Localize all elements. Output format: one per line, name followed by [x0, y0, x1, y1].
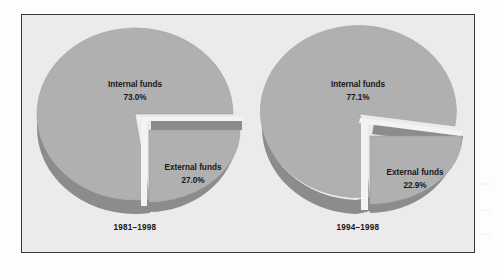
- internal-funds-label-right: Internal funds: [331, 80, 386, 89]
- pie-chart-svg-left: Internal funds 73.0% External funds 27.0…: [21, 14, 248, 253]
- internal-funds-label-left: Internal funds: [108, 80, 163, 89]
- pie-chart-1994-1998: Internal funds 77.1% External funds 22.9…: [248, 14, 475, 253]
- charts-row: Internal funds 73.0% External funds 27.0…: [21, 14, 475, 253]
- pie-chart-1981-1998: Internal funds 73.0% External funds 27.0…: [21, 14, 248, 253]
- pie-chart-svg-right: Internal funds 77.1% External funds 22.9…: [248, 14, 475, 253]
- caption-left: 1981–1998: [114, 223, 157, 232]
- page-edge-artifact: [477, 176, 495, 248]
- figure-root: Internal funds 73.0% External funds 27.0…: [0, 0, 497, 273]
- external-funds-label-right: External funds: [387, 168, 444, 177]
- external-funds-label-left: External funds: [165, 163, 222, 172]
- internal-funds-value-left: 73.0%: [123, 93, 147, 102]
- slice-gap-vertical-right: [361, 122, 368, 210]
- internal-funds-value-right: 77.1%: [346, 93, 370, 102]
- slice-gap-vertical-left: [141, 118, 147, 206]
- caption-right: 1994–1998: [337, 223, 380, 232]
- external-funds-value-right: 22.9%: [403, 181, 427, 190]
- external-funds-value-left: 27.0%: [181, 176, 205, 185]
- slice-gap-horizontal-left: [138, 117, 243, 121]
